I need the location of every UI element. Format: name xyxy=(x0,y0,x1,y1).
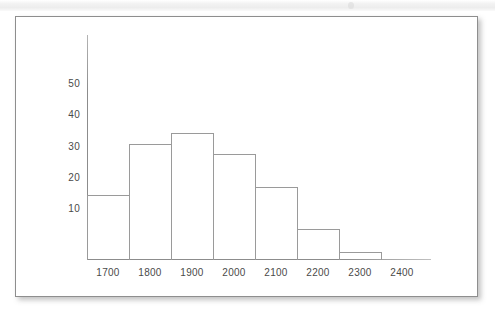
y-tick-label-20: 20 xyxy=(34,173,80,183)
histogram-bar-1700 xyxy=(87,195,130,260)
histogram-bar-1900 xyxy=(171,133,214,260)
y-tick-label-40: 40 xyxy=(34,110,80,120)
histogram-bar-2300 xyxy=(339,252,382,260)
histogram-chart-area: 50 40 30 20 10 1700 1800 1900 2000 2100 … xyxy=(16,17,479,298)
histogram-bar-2200 xyxy=(297,229,340,260)
y-tick-label-30: 30 xyxy=(34,142,80,152)
y-axis-tick-labels: 50 40 30 20 10 xyxy=(22,17,80,298)
histogram-bar-2100 xyxy=(255,187,298,260)
y-tick-label-10: 10 xyxy=(34,204,80,214)
page-band-mark xyxy=(348,2,354,9)
histogram-bar-1800 xyxy=(129,144,172,260)
histogram-figure-card: 50 40 30 20 10 1700 1800 1900 2000 2100 … xyxy=(15,16,478,297)
x-tick-label-2400: 2400 xyxy=(376,267,428,278)
page-top-band xyxy=(0,0,495,11)
y-tick-label-50: 50 xyxy=(34,79,80,89)
histogram-bar-2000 xyxy=(213,154,256,260)
